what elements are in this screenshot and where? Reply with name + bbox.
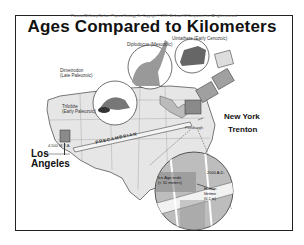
label-uintatherium: Uintathere (Early Cenozoic) xyxy=(172,36,227,41)
sign-2 xyxy=(185,100,201,114)
sign-5 xyxy=(214,50,233,68)
city-pittsburgh: Pittsburgh xyxy=(185,125,203,130)
label-ice-age: Ice Age ends (≈ 10 meters) xyxy=(158,175,182,185)
sign-1 xyxy=(60,130,70,142)
label-year: 2000 A.D. xyxy=(207,170,225,175)
label-trilobite: Trilobite (Early Paleozoic) xyxy=(62,104,96,114)
us-map-illustration xyxy=(0,0,304,245)
label-start-age: 4,500 M.Y.A. xyxy=(48,143,71,148)
label-diplodocus: Diplodocus (Mesozoic) xyxy=(127,42,173,47)
city-new-york: New York xyxy=(224,112,260,121)
city-los-angeles: Los Angeles xyxy=(31,149,70,169)
label-human-lifetime: Human lifetime (0.1 m) xyxy=(204,187,216,202)
city-trenton: Trenton xyxy=(228,125,257,134)
trilobite-figure xyxy=(98,107,110,113)
sign-4 xyxy=(212,68,235,89)
label-dimetrodon: Dimetrodon (Late Paleozoic) xyxy=(60,68,93,78)
